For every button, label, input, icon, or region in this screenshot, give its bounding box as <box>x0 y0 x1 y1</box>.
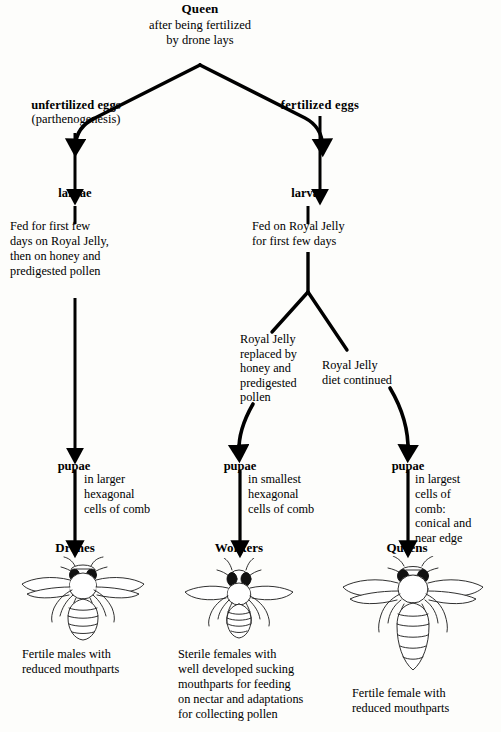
node-feeding-left: Fed for first few days on Royal Jelly, t… <box>10 219 138 279</box>
drone-bee-illustration <box>18 556 148 642</box>
feeding-left-line4: predigested pollen <box>10 264 138 279</box>
unfertilized-eggs-title: unfertilized eggs <box>0 98 152 112</box>
node-workers-title: Workers <box>192 541 286 556</box>
feeding-left-line3: then on honey and <box>10 249 138 264</box>
pupae-drone-line1: in larger <box>84 472 194 487</box>
node-royal-jelly-continued: Royal Jelly diet continued <box>322 358 402 387</box>
node-drones-title: Drones <box>28 541 122 556</box>
drones-caption-line2: reduced mouthparts <box>22 662 172 677</box>
rj-continued-line1: Royal Jelly <box>322 358 402 373</box>
pupae-queen-line2: cells of <box>415 487 501 502</box>
node-queen: Queen after being fertilized by drone la… <box>110 2 290 47</box>
pupae-queen-line4: conical and <box>415 516 501 531</box>
node-pupae-worker: pupae <box>194 459 286 473</box>
arrow-royal-jelly-continued-to-pupae <box>390 388 408 452</box>
queen-title: Queen <box>110 2 290 17</box>
queen-subtitle-line1: after being fertilized <box>110 18 290 32</box>
worker-bee-illustration <box>180 558 298 640</box>
node-unfertilized-eggs: unfertilized eggs (parthenogenesis) <box>0 98 152 126</box>
node-pupae-queen-detail: in largest cells of comb: conical and ne… <box>415 472 501 546</box>
feeding-right-line2: for first few days <box>252 234 376 249</box>
workers-caption-line3: mouthparts for feeding <box>178 677 350 692</box>
workers-caption-line4: on nectar and adaptations <box>178 692 350 707</box>
feeding-right-line1: Fed on Royal Jelly <box>252 219 376 234</box>
caption-queens: Fertile female with reduced mouthparts <box>352 686 501 716</box>
workers-caption-line5: for collecting pollen <box>178 707 350 722</box>
pupae-worker-line1: in smallest <box>248 472 358 487</box>
rj-continued-line2: diet continued <box>322 373 402 388</box>
pupae-drone-line3: cells of comb <box>84 502 194 517</box>
diagram-page: Queen after being fertilized by drone la… <box>0 0 501 732</box>
node-pupae-drone-detail: in larger hexagonal cells of comb <box>84 472 194 516</box>
queens-caption-line1: Fertile female with <box>352 686 501 701</box>
drones-caption-line1: Fertile males with <box>22 647 172 662</box>
node-pupae-drone: pupae <box>28 459 120 473</box>
pupae-drone-line2: hexagonal <box>84 487 194 502</box>
pupae-queen-line1: in largest <box>415 472 501 487</box>
pupae-worker-line2: hexagonal <box>248 487 358 502</box>
feeding-left-line1: Fed for first few <box>10 219 138 234</box>
queen-subtitle-line2: by drone lays <box>110 33 290 47</box>
rj-replaced-line1: Royal Jelly <box>240 332 318 347</box>
node-larvae-left: larvae <box>25 186 125 200</box>
pupae-queen-line3: comb: <box>415 502 501 517</box>
node-royal-jelly-replaced: Royal Jelly replaced by honey and predig… <box>240 332 318 405</box>
rj-replaced-line4: predigested <box>240 376 318 391</box>
node-queens-title: Queens <box>360 541 454 556</box>
queens-caption-line2: reduced mouthparts <box>352 701 501 716</box>
rj-replaced-line5: pollen <box>240 390 318 405</box>
caption-drones: Fertile males with reduced mouthparts <box>22 647 172 677</box>
unfertilized-eggs-subtitle: (parthenogenesis) <box>0 112 152 126</box>
workers-caption-line1: Sterile females with <box>178 647 350 662</box>
queen-bee-illustration <box>340 556 485 674</box>
node-pupae-queen: pupae <box>362 459 454 473</box>
rj-replaced-line3: honey and <box>240 361 318 376</box>
workers-caption-line2: well developed sucking <box>178 662 350 677</box>
node-larvae-right: larvae <box>258 186 358 200</box>
branch-to-royal-jelly-replaced <box>272 292 308 332</box>
node-fertilized-eggs: fertilized eggs <box>250 98 390 112</box>
caption-workers: Sterile females with well developed suck… <box>178 647 350 722</box>
feeding-left-line2: days on Royal Jelly, <box>10 234 138 249</box>
pupae-worker-line3: cells of comb <box>248 502 358 517</box>
arrow-royal-jelly-replaced-to-pupae <box>239 404 253 452</box>
node-pupae-worker-detail: in smallest hexagonal cells of comb <box>248 472 358 516</box>
rj-replaced-line2: replaced by <box>240 347 318 362</box>
node-feeding-right: Fed on Royal Jelly for first few days <box>252 219 376 249</box>
